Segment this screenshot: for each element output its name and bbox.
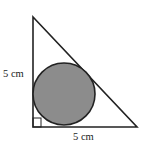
bottom-side-label: 5 cm [73, 131, 94, 142]
inscribed-circle [33, 63, 95, 125]
right-angle-marker [33, 118, 41, 127]
diagram-canvas: 5 cm 5 cm [0, 0, 153, 145]
left-side-label: 5 cm [3, 68, 24, 79]
